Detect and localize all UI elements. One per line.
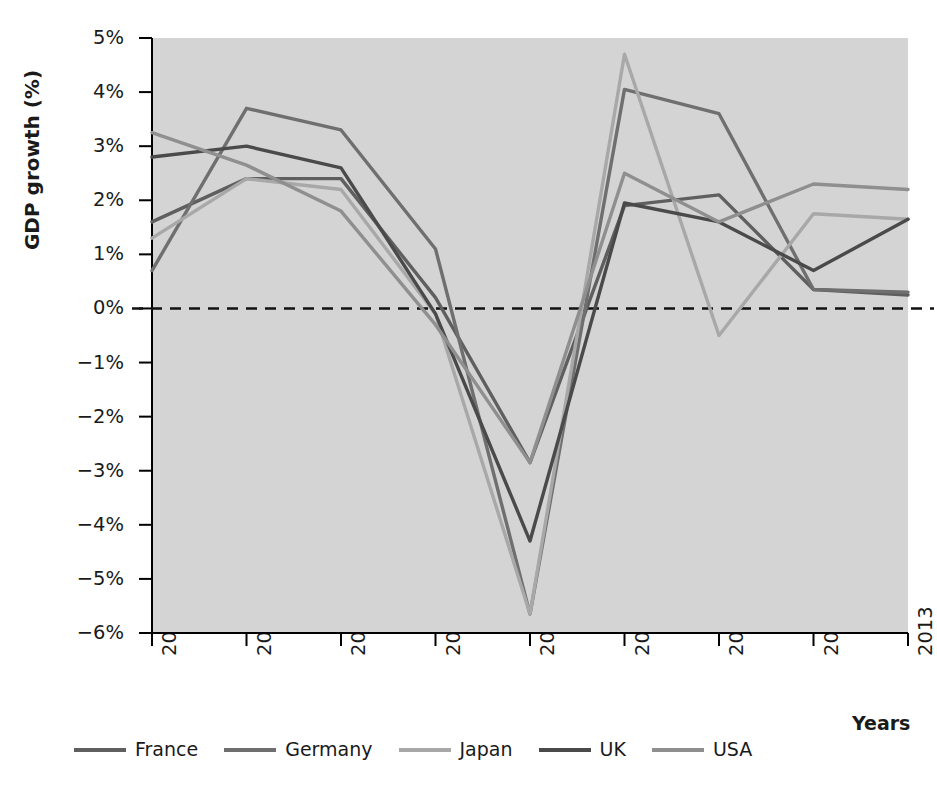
legend-item-france[interactable]: France	[74, 740, 198, 759]
legend-item-germany[interactable]: Germany	[224, 740, 372, 759]
plot-background	[152, 38, 908, 633]
gdp-growth-line-chart: GDP growth (%) 5%4%3%2%1%0%−1%−2%−3%−4%−…	[0, 0, 937, 799]
plot-area	[0, 0, 937, 799]
legend-line-swatch-icon	[539, 748, 591, 752]
legend-label: USA	[713, 740, 752, 759]
legend-item-usa[interactable]: USA	[652, 740, 752, 759]
x-axis-title: Years	[852, 712, 910, 734]
legend-line-swatch-icon	[74, 748, 126, 752]
legend-label: Japan	[460, 740, 513, 759]
legend-line-swatch-icon	[399, 748, 451, 752]
legend-item-uk[interactable]: UK	[539, 740, 626, 759]
legend-line-swatch-icon	[224, 748, 276, 752]
legend-label: France	[135, 740, 198, 759]
chart-legend: FranceGermanyJapanUKUSA	[74, 740, 778, 759]
legend-item-japan[interactable]: Japan	[399, 740, 513, 759]
legend-label: Germany	[285, 740, 372, 759]
legend-label: UK	[600, 740, 626, 759]
legend-line-swatch-icon	[652, 748, 704, 752]
